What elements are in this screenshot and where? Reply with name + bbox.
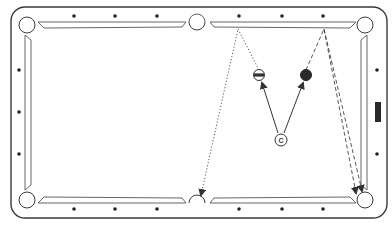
diamonds (17, 14, 379, 211)
diamond-bottom (321, 207, 325, 211)
diamond-bottom (72, 207, 76, 211)
diamond-bottom (113, 207, 117, 211)
pocket-top-side (189, 22, 205, 30)
pocket-bottom-left (19, 192, 35, 208)
diamond-bottom (280, 207, 284, 211)
pool-table-diagram: C (0, 0, 392, 225)
diamond-left (17, 110, 21, 114)
diamond-left (17, 152, 21, 156)
diamond-top (280, 14, 284, 18)
diamond-top (237, 14, 241, 18)
cue-to-solid (284, 83, 303, 133)
stripe-rail-path-left (201, 29, 259, 195)
diamond-top (321, 14, 325, 18)
diamond-bottom (237, 207, 241, 211)
striped-ball (254, 70, 265, 81)
cue-to-stripe (262, 83, 278, 133)
pockets (19, 14, 373, 208)
diamond-bottom (155, 207, 159, 211)
diamond-top (72, 14, 76, 18)
diamond-left (17, 68, 21, 72)
solid-rail-path-right (306, 29, 356, 193)
diamond-top (113, 14, 117, 18)
cue-shots (262, 83, 303, 133)
rail-marker (375, 102, 381, 122)
cue-ball-label: C (278, 137, 283, 144)
diamond-right (375, 152, 379, 156)
diamond-right (375, 68, 379, 72)
diamond-top (155, 14, 159, 18)
cushions (25, 22, 367, 203)
pocket-top-left (19, 17, 35, 33)
pool-table: C (0, 0, 392, 225)
ball-paths (201, 29, 362, 195)
pocket-bottom-right (357, 192, 373, 208)
cue-ball: C (275, 134, 287, 146)
solid-ball (301, 70, 312, 81)
outer-rail (11, 7, 387, 218)
pocket-top-right (357, 17, 373, 33)
solid-rail-path-right-2 (324, 29, 362, 191)
pocket-bottom-side (189, 195, 205, 203)
pocket-top-side-rim (189, 14, 205, 22)
object-balls (254, 70, 312, 81)
